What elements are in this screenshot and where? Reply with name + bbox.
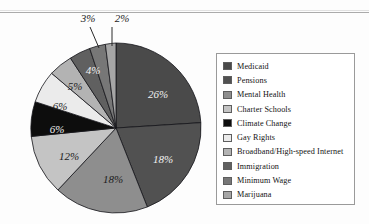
pie-label-immigration: 4%	[86, 64, 101, 76]
legend-swatch-immigration	[223, 162, 232, 170]
legend-label-medicaid: Medicaid	[237, 62, 269, 71]
legend-item-broadband: Broadband/High-speed Internet	[223, 145, 350, 159]
legend-swatch-charter-schools	[223, 105, 232, 113]
pie-label-minimum-wage: 3%	[80, 12, 96, 24]
legend-label-mental-health: Mental Health	[237, 90, 285, 99]
pie-chart: 26% 18% 18% 12% 6% 6% 5% 4% 3% 2%	[0, 0, 215, 224]
legend-swatch-broadband	[223, 148, 232, 156]
legend-item-mental-health: Mental Health	[223, 88, 350, 102]
legend-label-broadband: Broadband/High-speed Internet	[237, 147, 343, 156]
legend-item-climate-change: Climate Change	[223, 116, 350, 130]
legend-swatch-medicaid	[223, 62, 232, 70]
legend-item-pensions: Pensions	[223, 73, 350, 87]
pie-slice-medicaid	[116, 43, 201, 128]
legend-swatch-mental-health	[223, 91, 232, 99]
legend-label-pensions: Pensions	[237, 76, 267, 85]
pie-label-marijuana: 2%	[115, 12, 130, 24]
pie-label-climate-change: 6%	[50, 123, 65, 135]
legend-swatch-minimum-wage	[223, 177, 232, 185]
legend-item-marijuana: Marijuana	[223, 188, 350, 202]
legend-item-medicaid: Medicaid	[223, 59, 350, 73]
pie-label-pensions: 18%	[153, 153, 173, 165]
legend-item-charter-schools: Charter Schools	[223, 102, 350, 116]
pie-label-broadband: 5%	[68, 80, 83, 92]
leader-line-minimum-wage	[90, 27, 99, 48]
pie-chart-svg: 26% 18% 18% 12% 6% 6% 5% 4% 3% 2%	[0, 0, 215, 224]
chart-legend: Medicaid Pensions Mental Health Charter …	[216, 53, 355, 205]
pie-label-charter-schools: 12%	[59, 150, 79, 162]
legend-label-gay-rights: Gay Rights	[237, 133, 275, 142]
legend-item-immigration: Immigration	[223, 159, 350, 173]
legend-label-marijuana: Marijuana	[237, 190, 272, 199]
legend-item-minimum-wage: Minimum Wage	[223, 173, 350, 187]
legend-swatch-gay-rights	[223, 134, 232, 142]
chart-page: 26% 18% 18% 12% 6% 6% 5% 4% 3% 2% Medica…	[0, 0, 369, 224]
pie-label-medicaid: 26%	[148, 88, 168, 100]
legend-label-climate-change: Climate Change	[237, 119, 291, 128]
legend-label-charter-schools: Charter Schools	[237, 105, 291, 114]
legend-label-minimum-wage: Minimum Wage	[237, 176, 291, 185]
legend-swatch-marijuana	[223, 191, 232, 199]
legend-swatch-pensions	[223, 76, 232, 84]
legend-swatch-climate-change	[223, 119, 232, 127]
pie-label-gay-rights: 6%	[53, 100, 68, 112]
legend-label-immigration: Immigration	[237, 162, 279, 171]
pie-label-mental-health: 18%	[103, 173, 123, 185]
legend-item-gay-rights: Gay Rights	[223, 130, 350, 144]
